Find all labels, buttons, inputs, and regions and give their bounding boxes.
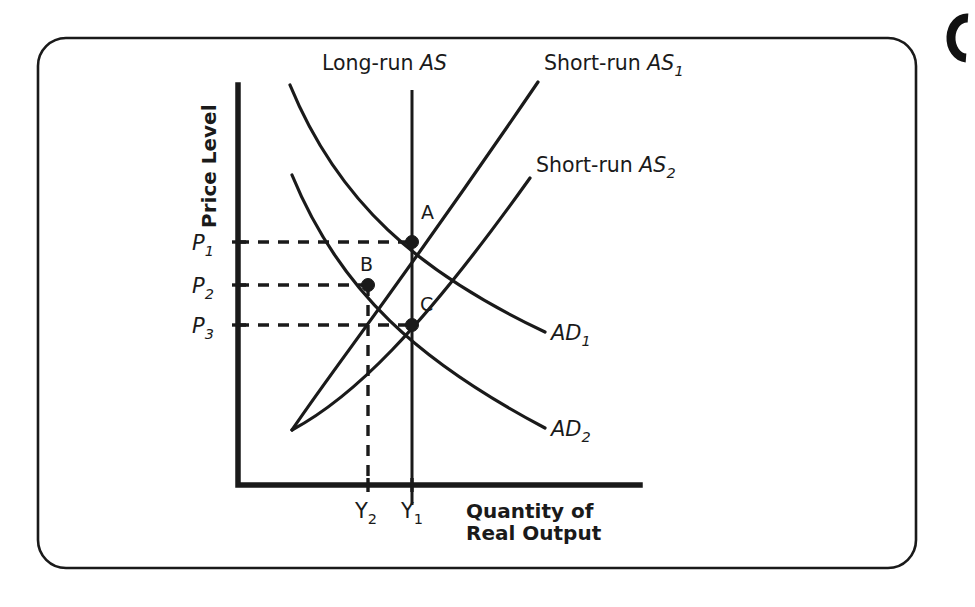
point-label-c: C bbox=[420, 293, 433, 315]
curve-label-ad-1-sub: 1 bbox=[582, 333, 591, 349]
curve-label-long-run-as: Long-run AS bbox=[322, 51, 447, 75]
point-label-a: A bbox=[421, 201, 434, 223]
curve-label-short-run-as-2-text: Short-run bbox=[536, 153, 639, 177]
curve-label-long-run-as-italic: AS bbox=[418, 51, 447, 75]
curve-label-ad-2-text: AD bbox=[549, 417, 582, 441]
axis-label-y1-text: Y bbox=[400, 499, 414, 523]
curve-label-ad-2-sub: 2 bbox=[582, 429, 591, 445]
axis-label-y1: Y1 bbox=[400, 499, 423, 527]
axis-label-p3-text: P bbox=[192, 314, 205, 338]
figure-border bbox=[38, 38, 916, 568]
axis-label-p2: P2 bbox=[192, 274, 214, 302]
curve-label-long-run-as-text: Long-run bbox=[322, 51, 420, 75]
curve-label-short-run-as-2-italic: AS bbox=[637, 153, 666, 177]
curve-label-short-run-as-2-sub: 2 bbox=[666, 165, 675, 181]
curve-label-short-run-as-1-sub: 1 bbox=[674, 63, 683, 79]
axis-label-p3-sub: 3 bbox=[205, 326, 214, 342]
curve-label-short-run-as-1-italic: AS bbox=[645, 51, 674, 75]
point-marker-a bbox=[406, 236, 419, 249]
curve-label-short-run-as-1-text: Short-run bbox=[544, 51, 647, 75]
curve-label-ad-1-text: AD bbox=[549, 321, 582, 345]
x-axis-title-line-2: Real Output bbox=[466, 521, 602, 545]
axis-label-p1-text: P bbox=[192, 231, 205, 255]
axis-label-y1-sub: 1 bbox=[414, 511, 423, 527]
figure-container: A B C Long-run AS Short-run AS1 Short-ru… bbox=[0, 0, 975, 607]
page-margin-glyph-icon bbox=[951, 18, 968, 58]
ad-as-diagram: A B C Long-run AS Short-run AS1 Short-ru… bbox=[0, 0, 975, 607]
axis-label-p2-text: P bbox=[192, 274, 205, 298]
axis-label-y2-text: Y bbox=[354, 499, 368, 523]
axis-label-p1: P1 bbox=[192, 231, 214, 259]
axis-label-p3: P3 bbox=[192, 314, 214, 342]
curve-label-ad-1: AD1 bbox=[549, 321, 591, 349]
x-axis-title-line-1: Quantity of bbox=[466, 499, 594, 523]
point-marker-b bbox=[362, 279, 375, 292]
axis-label-p2-sub: 2 bbox=[205, 286, 214, 302]
curve-short-run-as-1 bbox=[292, 82, 538, 430]
curve-ad-2 bbox=[292, 175, 545, 428]
point-label-b: B bbox=[360, 253, 373, 275]
curve-label-short-run-as-2: Short-run AS2 bbox=[536, 153, 676, 181]
curve-label-short-run-as-1: Short-run AS1 bbox=[544, 51, 684, 79]
y-axis-title: Price Level bbox=[197, 104, 221, 228]
curve-label-ad-2: AD2 bbox=[549, 417, 591, 445]
axis-label-y2-sub: 2 bbox=[368, 511, 377, 527]
point-marker-c bbox=[406, 319, 419, 332]
axis-label-p1-sub: 1 bbox=[205, 243, 214, 259]
axis-label-y2: Y2 bbox=[354, 499, 377, 527]
